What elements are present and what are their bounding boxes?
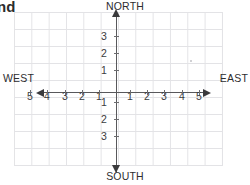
east-arrowhead-icon — [203, 89, 211, 97]
x-axis-tick-mark — [99, 90, 100, 95]
y-axis-tick-mark — [114, 136, 119, 137]
y-axis-tick-mark — [114, 102, 119, 103]
direction-label-south: SOUTH — [106, 170, 144, 182]
stray-speck-mark — [190, 60, 192, 62]
y-tick-label-south: 3 — [99, 130, 109, 142]
x-axis-tick-mark — [164, 90, 165, 95]
x-axis-tick-mark — [30, 90, 31, 95]
y-axis-tick-mark — [114, 70, 119, 71]
y-tick-label-north: 1 — [99, 64, 109, 76]
x-axis-tick-mark — [82, 90, 83, 95]
x-axis-tick-mark — [65, 90, 66, 95]
x-axis-tick-mark — [147, 90, 148, 95]
y-axis-tick-mark — [114, 36, 119, 37]
y-tick-label-north: 3 — [99, 30, 109, 42]
y-axis-tick-mark — [114, 53, 119, 54]
x-axis-tick-mark — [182, 90, 183, 95]
direction-label-west: WEST — [3, 72, 34, 84]
x-axis-tick-mark — [130, 90, 131, 95]
y-axis-tick-mark — [114, 119, 119, 120]
y-tick-label-south: 2 — [99, 113, 109, 125]
x-axis-tick-mark — [199, 90, 200, 95]
direction-label-east: EAST — [220, 72, 248, 84]
y-tick-label-north: 2 — [99, 47, 109, 59]
direction-label-north: NORTH — [106, 0, 144, 12]
coordinate-grid-figure: nd NORTH SOUTH WEST EAST 321123543211234… — [0, 0, 250, 185]
x-axis-tick-mark — [47, 90, 48, 95]
